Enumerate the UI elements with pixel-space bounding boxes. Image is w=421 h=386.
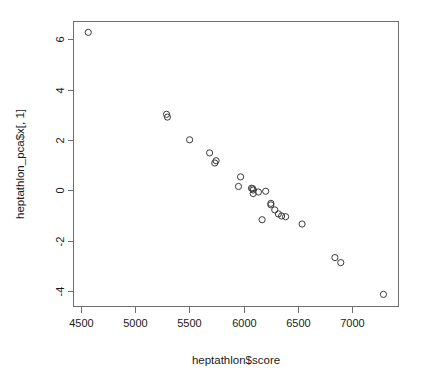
y-tick-label: 2 [54,137,66,143]
x-axis-title: heptathlon$score [192,354,280,366]
data-points-layer [85,29,386,297]
y-axis-title: heptathlon_pca$x[, 1] [14,109,26,219]
y-axis-ticks: 6420-2-4 [54,36,73,296]
y-tick-label: 0 [54,187,66,193]
y-tick-label: 4 [54,87,66,93]
x-tick-label: 5000 [123,317,147,329]
data-point [332,254,338,260]
data-point [85,29,91,35]
x-tick-label: 4500 [69,317,93,329]
data-point [206,150,212,156]
data-point [338,260,344,266]
x-tick-label: 6000 [232,317,256,329]
data-point [263,188,269,194]
r-plot-window: 450050005500600065007000 6420-2-4 heptat… [0,0,421,386]
plot-panel-border [74,22,399,307]
x-tick-label: 5500 [177,317,201,329]
data-point [283,214,289,220]
scatter-plot: 450050005500600065007000 6420-2-4 heptat… [0,0,421,386]
data-point [187,137,193,143]
data-point [272,207,278,213]
x-axis-ticks: 450050005500600065007000 [69,307,364,329]
data-point [237,174,243,180]
data-point [299,221,305,227]
y-tick-label: -2 [54,237,66,247]
data-point [235,183,241,189]
data-point [380,291,386,297]
y-tick-label: 6 [54,36,66,42]
x-tick-label: 7000 [340,317,364,329]
data-point [259,217,265,223]
y-tick-label: -4 [54,287,66,297]
x-tick-label: 6500 [286,317,310,329]
